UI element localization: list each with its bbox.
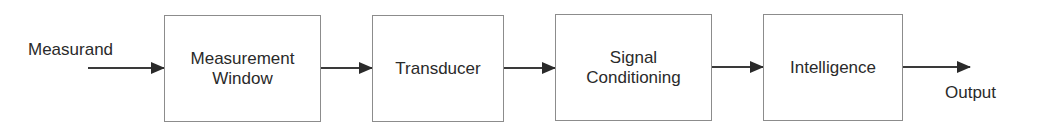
block-transducer: Transducer — [372, 15, 504, 122]
input-label-measurand: Measurand — [28, 40, 113, 60]
block-label-line: Window — [212, 69, 272, 89]
block-label-line: Intelligence — [790, 58, 876, 78]
block-measurement-window: Measurement Window — [164, 15, 321, 122]
output-label: Output — [945, 83, 996, 103]
block-label-line: Transducer — [395, 59, 480, 79]
block-label-line: Signal — [610, 48, 657, 68]
block-label-line: Conditioning — [586, 68, 681, 88]
block-label-line: Measurement — [191, 49, 295, 69]
block-signal-conditioning: Signal Conditioning — [555, 14, 712, 121]
block-intelligence: Intelligence — [763, 14, 903, 121]
